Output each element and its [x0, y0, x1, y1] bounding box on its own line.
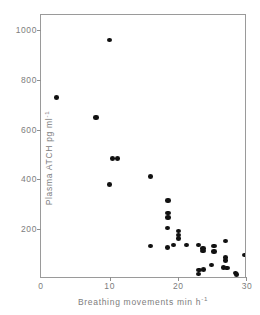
y-axis-tick-label: 800	[21, 75, 37, 85]
data-point	[196, 272, 201, 277]
x-axis-title: Breathing movements min h-1	[40, 297, 246, 307]
y-axis-tick	[37, 229, 41, 230]
x-axis-tick-label: 10	[104, 281, 115, 291]
data-point	[184, 243, 189, 248]
y-axis-title: Plasma ATCH pg ml-1	[44, 110, 54, 205]
data-point	[171, 243, 176, 248]
y-axis-tick-label: 600	[21, 125, 37, 135]
data-point	[201, 267, 206, 272]
data-point	[165, 215, 170, 220]
y-axis-title-exponent: -1	[43, 110, 50, 117]
data-point	[211, 249, 216, 254]
y-axis-tick-label: 200	[21, 224, 37, 234]
y-axis-tick-label: 400	[21, 174, 37, 184]
y-axis-tick	[37, 130, 41, 131]
data-point	[54, 95, 59, 100]
data-point	[223, 239, 228, 244]
x-axis-tick-label: 30	[242, 281, 253, 291]
data-point	[209, 263, 214, 268]
data-point	[107, 38, 112, 43]
x-axis-tick-label: 0	[38, 281, 43, 291]
data-point	[176, 236, 181, 241]
data-point	[107, 182, 112, 187]
scatter-plot-figure: 2004006008001000 0102030 Plasma ATCH pg …	[0, 0, 260, 315]
data-point	[211, 244, 216, 249]
data-point	[165, 245, 170, 250]
data-point	[148, 244, 153, 249]
y-axis-tick	[37, 179, 41, 180]
data-point	[242, 253, 245, 258]
data-point	[93, 115, 98, 120]
x-axis-title-text: Breathing movements min h	[78, 297, 201, 307]
data-point	[200, 249, 205, 254]
data-point	[148, 174, 153, 179]
data-point	[234, 272, 239, 277]
y-axis-tick-label: 1000	[16, 25, 37, 35]
data-point	[165, 198, 170, 203]
x-axis-title-exponent: -1	[201, 295, 208, 302]
y-axis-tick	[37, 30, 41, 31]
data-point	[196, 268, 201, 273]
data-point	[165, 226, 170, 231]
y-axis-title-text: Plasma ATCH pg ml	[44, 117, 54, 205]
data-point	[223, 258, 228, 263]
y-axis-tick	[37, 80, 41, 81]
plot-frame: 2004006008001000 0102030	[40, 14, 246, 278]
data-point	[115, 156, 120, 161]
x-axis-tick-label: 20	[173, 281, 184, 291]
plot-data-area	[41, 15, 245, 277]
data-point	[224, 266, 229, 271]
